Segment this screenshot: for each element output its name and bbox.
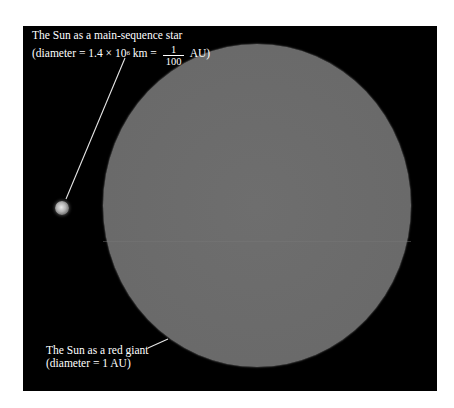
fraction-numerator: 1 bbox=[169, 45, 178, 55]
red-giant-diameter: (diameter = 1 AU) bbox=[46, 357, 149, 370]
fraction-denominator: 100 bbox=[163, 55, 185, 67]
fraction-suffix: AU) bbox=[187, 47, 210, 60]
main-sequence-title: The Sun as a main-sequence star bbox=[32, 29, 210, 42]
main-sequence-sun bbox=[55, 201, 69, 215]
red-giant-leader-line bbox=[148, 339, 168, 348]
red-giant-label: The Sun as a red giant (diameter = 1 AU) bbox=[46, 344, 149, 370]
red-giant-title: The Sun as a red giant bbox=[46, 344, 149, 357]
scan-seam bbox=[103, 241, 411, 242]
au-fraction: 1 100 bbox=[163, 45, 185, 67]
diameter-prefix: (diameter = 1.4 × 10 bbox=[32, 47, 126, 60]
main-sequence-diameter: (diameter = 1.4 × 106 km = 1 100 AU) bbox=[32, 42, 210, 64]
main-sequence-label: The Sun as a main-sequence star (diamete… bbox=[32, 29, 210, 64]
diameter-unit: km = bbox=[130, 47, 160, 60]
figure-panel: The Sun as a main-sequence star (diamete… bbox=[23, 26, 437, 391]
red-giant-sun bbox=[103, 44, 411, 367]
